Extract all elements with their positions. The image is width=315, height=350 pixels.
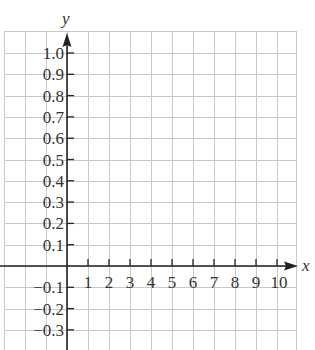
y-axis-label: y — [60, 9, 70, 28]
y-tick-label: 0.7 — [43, 108, 65, 127]
x-tick-label: 9 — [252, 273, 261, 292]
y-tick-label: 0.9 — [43, 65, 64, 84]
x-tick-labels: 12345678910 — [84, 273, 288, 292]
x-tick-label: 5 — [168, 273, 177, 292]
y-tick-label: −0.3 — [33, 321, 64, 340]
coordinate-grid-chart: 1.00.90.80.70.60.50.40.30.20.1−0.1−0.2−0… — [0, 0, 315, 350]
y-tick-label: 0.8 — [43, 87, 64, 106]
y-tick-label: 0.3 — [43, 193, 64, 212]
x-axis-label: x — [301, 256, 310, 275]
y-tick-label: 0.1 — [43, 236, 64, 255]
y-tick-label: 0.2 — [43, 214, 64, 233]
x-tick-label: 2 — [105, 273, 114, 292]
y-tick-label: −0.2 — [33, 300, 64, 319]
y-tick-label: 1.0 — [43, 44, 64, 63]
y-tick-label: 0.6 — [43, 129, 64, 148]
y-tick-label: 0.4 — [43, 172, 65, 191]
x-tick-label: 3 — [126, 273, 135, 292]
x-axis-arrow-icon — [284, 262, 298, 271]
x-tick-label: 7 — [210, 273, 219, 292]
x-tick-label: 6 — [189, 273, 198, 292]
x-tick-label: 8 — [231, 273, 240, 292]
x-tick-label: 4 — [147, 273, 156, 292]
y-tick-label: −0.1 — [33, 278, 64, 297]
y-tick-labels: 1.00.90.80.70.60.50.40.30.20.1−0.1−0.2−0… — [33, 44, 64, 340]
x-tick-label: 1 — [84, 273, 93, 292]
x-tick-label: 10 — [271, 273, 288, 292]
y-tick-label: 0.5 — [43, 151, 64, 170]
